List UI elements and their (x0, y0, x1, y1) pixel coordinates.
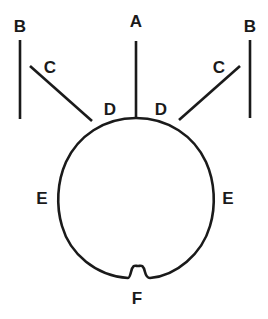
label-d-left: D (104, 100, 116, 119)
label-d-right: D (155, 100, 167, 119)
label-e-left: E (36, 189, 47, 208)
diagram-canvas: A B B C C D D E E F (0, 0, 268, 319)
label-c-left: C (44, 58, 56, 77)
line-c-left (30, 66, 92, 121)
label-a: A (130, 12, 142, 31)
label-b-right: B (244, 17, 256, 36)
label-e-right: E (222, 189, 233, 208)
label-c-right: C (213, 58, 225, 77)
label-b-left: B (14, 17, 26, 36)
circle-outline (58, 118, 214, 278)
line-c-right (179, 66, 240, 120)
label-f: F (132, 289, 142, 308)
